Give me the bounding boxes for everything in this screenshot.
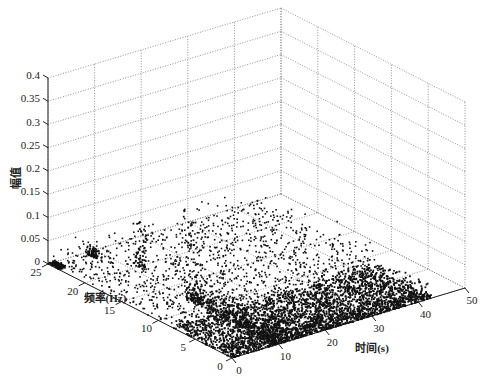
x-axis-label: 时间(s) [355, 341, 389, 355]
z-tick-label: 0.4 [26, 69, 40, 81]
z-tick-label: 0 [35, 255, 41, 267]
x-tick-label: 40 [420, 308, 432, 320]
y-tick [226, 358, 232, 361]
y-axis-label: 频率(Hz) [84, 291, 127, 305]
grid-line [48, 124, 281, 194]
z-tick-label: 0.05 [21, 232, 41, 244]
z-tick-label: 0.35 [21, 92, 41, 104]
grid-line [85, 213, 318, 283]
x-tick [325, 330, 329, 335]
grid-line [48, 8, 281, 78]
y-tick-label: 25 [31, 266, 43, 278]
y-tick-label: 10 [141, 322, 153, 334]
y-tick [42, 264, 48, 267]
grid-line [281, 31, 465, 125]
grid-line [281, 124, 465, 218]
y-tick-label: 5 [180, 341, 186, 353]
z-tick [43, 261, 48, 264]
x-tick-label: 30 [373, 322, 385, 334]
grid-line [281, 55, 465, 149]
x-tick [279, 344, 283, 349]
z-tick-label: 0.25 [21, 139, 41, 151]
y-tick [189, 339, 195, 342]
z-tick [43, 145, 48, 148]
grid-line [48, 148, 281, 218]
z-tick [43, 215, 48, 218]
grid-line [281, 8, 465, 102]
z-tick [43, 122, 48, 125]
z-tick [43, 191, 48, 194]
x-tick [372, 316, 376, 321]
grid-line [48, 194, 281, 264]
x-tick-label: 20 [327, 336, 339, 348]
z-tick [43, 98, 48, 101]
z-tick-label: 0.1 [26, 209, 40, 221]
x-tick [465, 288, 469, 293]
x-tick-label: 0 [236, 364, 242, 376]
z-tick-label: 0.3 [26, 116, 40, 128]
z-tick [43, 238, 48, 241]
z-tick [43, 168, 48, 171]
x-tick [232, 358, 236, 363]
x-tick-label: 10 [280, 350, 292, 362]
z-axis-label: 幅值 [9, 167, 22, 189]
grid-line [281, 101, 465, 195]
y-tick-label: 20 [67, 285, 79, 297]
x-tick [418, 302, 422, 307]
z-tick-label: 0.15 [21, 185, 41, 197]
y-tick-label: 0 [217, 360, 223, 372]
grid-line [48, 101, 281, 171]
x-tick-label: 50 [467, 294, 479, 306]
y-tick [79, 283, 85, 286]
grid-line [281, 148, 465, 242]
grid-line [281, 78, 465, 172]
z-tick-label: 0.2 [26, 162, 40, 174]
grid-line [48, 78, 281, 148]
grid-line [48, 31, 281, 101]
chart-3d-scatter: 01020304050051015202500.050.10.150.20.25… [0, 0, 490, 378]
y-tick-label: 15 [104, 304, 116, 316]
y-tick [152, 320, 158, 323]
z-tick [43, 75, 48, 78]
grid-line [48, 55, 281, 125]
